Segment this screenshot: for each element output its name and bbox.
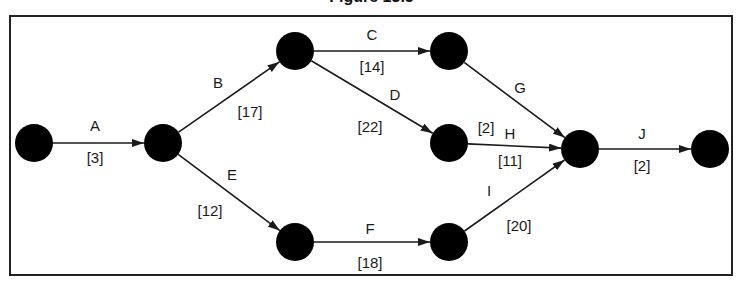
duration-label-d: [22] xyxy=(357,118,382,135)
duration-label-g: [2] xyxy=(478,119,495,136)
event-node-n4 xyxy=(430,32,468,70)
event-node-n7 xyxy=(430,223,468,261)
duration-label-a: [3] xyxy=(87,149,104,166)
activity-network-diagram: A[3]B[17]C[14]D[22]E[12]F[18]G[2]H[11]I[… xyxy=(0,0,743,284)
activity-label-f: F xyxy=(365,220,374,237)
activity-label-e: E xyxy=(227,166,237,183)
duration-label-h: [11] xyxy=(498,152,522,169)
activity-label-h: H xyxy=(505,125,516,142)
duration-label-c: [14] xyxy=(359,58,384,75)
activity-label-i: I xyxy=(487,182,491,199)
activity-label-d: D xyxy=(390,86,401,103)
duration-label-b: [17] xyxy=(237,103,262,120)
event-node-n8 xyxy=(561,130,599,168)
duration-label-j: [2] xyxy=(634,157,651,174)
event-node-n1 xyxy=(15,124,53,162)
event-node-n9 xyxy=(691,130,729,168)
event-node-n3 xyxy=(276,32,314,70)
event-node-n6 xyxy=(276,223,314,261)
duration-label-i: [20] xyxy=(506,217,531,234)
activity-label-b: B xyxy=(213,74,223,91)
event-node-n5 xyxy=(430,124,468,162)
activity-label-c: C xyxy=(367,26,378,43)
activity-label-a: A xyxy=(90,117,100,134)
event-node-n2 xyxy=(144,124,182,162)
activity-label-j: J xyxy=(638,125,646,142)
duration-label-f: [18] xyxy=(357,254,382,271)
edge-b-arrow xyxy=(179,62,280,132)
edge-h-arrow xyxy=(468,144,561,148)
activity-label-g: G xyxy=(514,79,526,96)
duration-label-e: [12] xyxy=(197,202,222,219)
